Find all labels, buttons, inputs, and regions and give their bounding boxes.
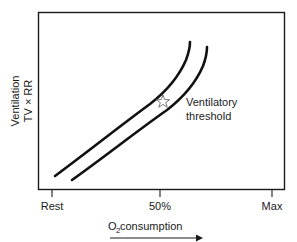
y-axis-title-line-1: Ventilation — [9, 76, 21, 127]
xtick-label-rest: Rest — [41, 200, 64, 212]
x-axis-title-rest: consumption — [120, 220, 182, 232]
annotation-line-2: threshold — [186, 110, 231, 122]
y-axis-title-line-2: TV × RR — [22, 80, 34, 123]
chart-canvas: Ventilatory threshold Rest 50% Max O 2 c… — [0, 0, 297, 242]
xtick-label-50: 50% — [149, 200, 171, 212]
x-axis-arrow-head-icon — [196, 235, 203, 242]
annotation-line-1: Ventilatory — [186, 96, 238, 108]
plot-frame — [39, 13, 285, 190]
ventilation-chart-figure: Ventilatory threshold Rest 50% Max O 2 c… — [0, 0, 297, 242]
xtick-label-max: Max — [262, 200, 283, 212]
